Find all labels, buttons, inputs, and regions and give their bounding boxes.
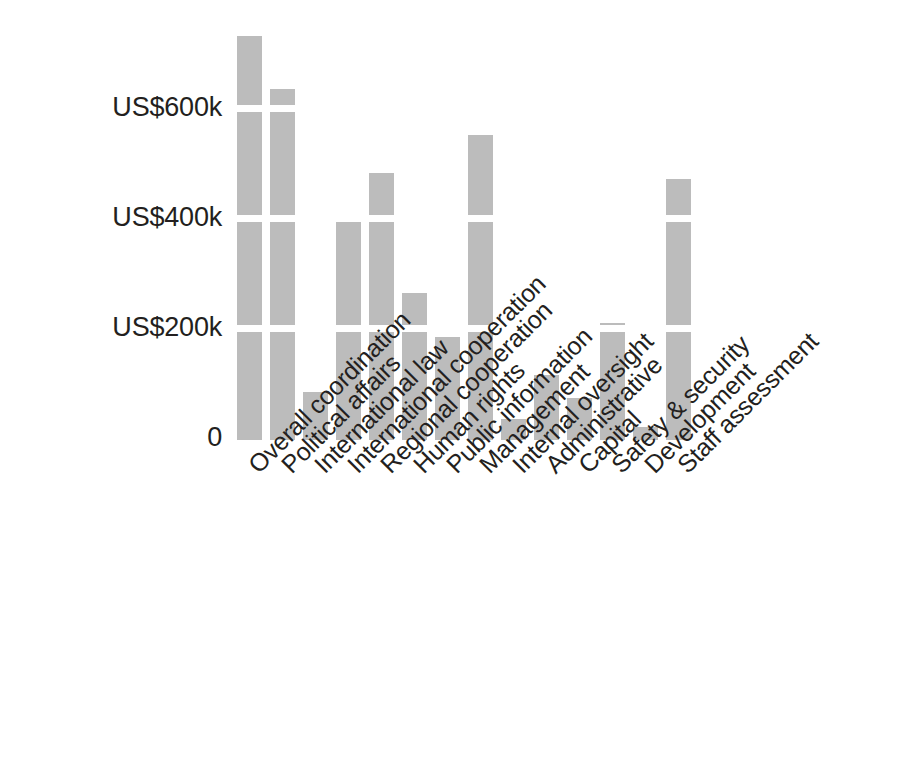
y-tick-label-400k: US$400k: [0, 204, 222, 231]
gridline-200k: [225, 325, 885, 332]
y-tick-label-0: 0: [0, 424, 222, 451]
y-axis: US$600k US$400k US$200k 0: [0, 0, 222, 771]
bar[interactable]: [270, 89, 295, 440]
gridline-400k: [225, 215, 885, 222]
y-tick-label-200k: US$200k: [0, 314, 222, 341]
gridline-600k: [225, 105, 885, 112]
bar-chart: US$600k US$400k US$200k 0 Overall coordi…: [0, 0, 903, 771]
bar[interactable]: [237, 36, 262, 440]
y-tick-label-600k: US$600k: [0, 94, 222, 121]
